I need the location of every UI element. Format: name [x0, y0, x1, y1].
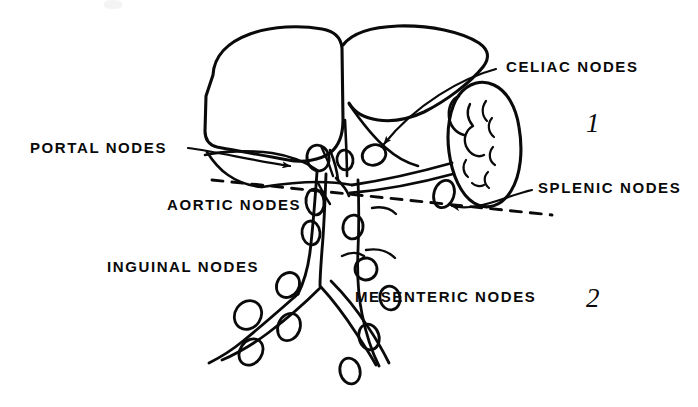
- spleen-outline: [448, 82, 521, 207]
- zone-number-2: 2: [586, 285, 600, 312]
- label-celiac-nodes: CELIAC NODES: [506, 59, 639, 74]
- lymph-node-diagram: PORTAL NODES CELIAC NODES AORTIC NODES S…: [0, 0, 698, 407]
- zone-number-1: 1: [586, 110, 600, 137]
- label-splenic-nodes: SPLENIC NODES: [538, 180, 681, 195]
- label-aortic-nodes: AORTIC NODES: [167, 197, 301, 212]
- splenic-vessel: [350, 163, 453, 193]
- leader-celiac: [384, 69, 496, 144]
- lymph-nodes: [229, 141, 458, 386]
- label-mesenteric-nodes: MESENTERIC NODES: [355, 289, 536, 304]
- liver-outline: [205, 26, 488, 187]
- label-portal-nodes: PORTAL NODES: [30, 140, 167, 155]
- label-inguinal-nodes: INGUINAL NODES: [107, 259, 259, 274]
